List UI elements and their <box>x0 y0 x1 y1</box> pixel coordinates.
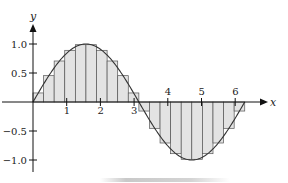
riemann-rectangle <box>75 45 86 102</box>
y-tick-label: 1.0 <box>11 39 27 50</box>
riemann-rectangle <box>44 76 55 102</box>
x-tick-label: 2 <box>97 105 103 116</box>
y-tick-label: −0.5 <box>3 126 27 137</box>
riemann-rectangle <box>54 61 65 102</box>
riemann-rectangle <box>224 102 235 128</box>
riemann-rectangle <box>213 102 224 143</box>
sine-riemann-chart: x y 123456 1.00.5−0.5−1.0 <box>0 0 288 183</box>
x-tick-label: 6 <box>232 86 238 97</box>
y-axis-arrow-icon <box>30 24 37 32</box>
y-tick-label: −1.0 <box>3 155 27 166</box>
x-axis-label: x <box>270 96 277 109</box>
riemann-rectangle <box>97 50 108 102</box>
riemann-rectangle <box>107 61 118 102</box>
y-axis-label: y <box>29 10 37 23</box>
x-tick-label: 5 <box>199 86 205 97</box>
riemann-rectangle <box>192 102 203 159</box>
x-axis-arrow-icon <box>260 99 268 106</box>
riemann-rectangle <box>181 102 192 159</box>
y-axis: y <box>29 10 37 172</box>
riemann-rectangle <box>86 45 97 102</box>
x-tick-label: 4 <box>165 86 171 97</box>
riemann-rectangle <box>139 102 150 111</box>
x-tick-label: 3 <box>131 105 137 116</box>
riemann-rectangle <box>65 50 76 102</box>
scan-artifact-band <box>100 178 230 182</box>
riemann-rectangle <box>202 102 213 154</box>
x-tick-label: 1 <box>64 105 70 116</box>
riemann-rectangle <box>160 102 171 143</box>
riemann-rectangle <box>118 76 129 102</box>
riemann-rectangle <box>234 102 245 111</box>
riemann-rectangle <box>149 102 160 128</box>
y-tick-label: 0.5 <box>11 68 27 79</box>
riemann-rectangle <box>128 93 139 102</box>
riemann-rectangle <box>33 93 44 102</box>
riemann-rectangle <box>171 102 182 154</box>
